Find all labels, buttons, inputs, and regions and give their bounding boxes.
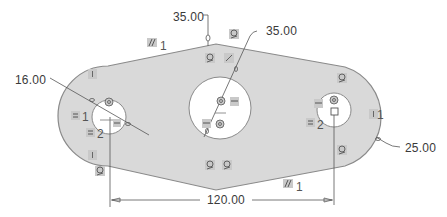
vertical-constraint-icon[interactable]	[88, 69, 97, 79]
equal-constraint-icon[interactable]	[306, 118, 315, 127]
parallel-top-label: 1	[160, 39, 167, 53]
dim-left-hole-diameter[interactable]: 16.00	[15, 73, 46, 87]
equal-left-label-2: 2	[97, 127, 104, 141]
vertical-constraint-icon[interactable]	[88, 150, 97, 160]
dim-right-radius[interactable]: 25.00	[405, 141, 436, 155]
coincident-constraint-icon[interactable]	[216, 120, 224, 128]
dim-center-hole-diameter[interactable]: 35.00	[266, 24, 297, 38]
parallel-bottom-label: 1	[296, 180, 303, 194]
dim-center-distance[interactable]: 120.00	[207, 193, 245, 207]
coincident-constraint-icon[interactable]	[217, 97, 225, 105]
center-point-marker[interactable]	[331, 108, 338, 115]
equal-left-label-1: 1	[82, 110, 89, 124]
equal-constraint-icon[interactable]	[71, 111, 80, 120]
center-hole[interactable]	[189, 77, 251, 139]
dim-radius-leader	[376, 137, 400, 147]
equal-right-label-2: 2	[317, 118, 324, 132]
parallel-constraint-icon[interactable]	[283, 179, 293, 188]
equal-right-label-1: 1	[377, 108, 384, 122]
coincident-constraint-icon[interactable]	[105, 98, 113, 106]
dim-top-width[interactable]: 35.00	[173, 10, 204, 24]
coincident-constraint-icon[interactable]	[330, 96, 338, 104]
equal-constraint-icon[interactable]	[86, 128, 95, 137]
parallel-constraint-icon[interactable]	[147, 38, 157, 47]
